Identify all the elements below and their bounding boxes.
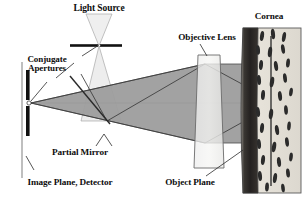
source-upper-cone: [86, 14, 112, 46]
leader-conjugate-b: [31, 82, 47, 101]
label-image-plane-detector: Image Plane, Detector: [8, 178, 132, 188]
label-conjugate-line2: Apertures: [28, 63, 66, 73]
label-objective-lens: Objective Lens: [166, 33, 248, 43]
cornea-epithelium-band: [241, 28, 258, 193]
label-object-plane: Object Plane: [152, 178, 228, 188]
aperture-blade-lower: [26, 106, 30, 136]
light-source-aperture-bar: [70, 44, 122, 47]
cornea-block: [241, 28, 301, 193]
label-partial-mirror: Partial Mirror: [42, 148, 118, 158]
objective-lens: [194, 55, 224, 168]
objective-lens-body: [194, 55, 224, 168]
label-conjugate-apertures: Conjugate Apertures: [16, 55, 78, 74]
light-source-assembly: [70, 44, 122, 47]
label-light-source: Light Source: [62, 4, 136, 14]
label-cornea: Cornea: [244, 12, 294, 22]
leader-objective-lens: [200, 44, 207, 56]
detector-pinhole: [27, 101, 31, 105]
figure-canvas: Light Source Conjugate Apertures Partial…: [0, 0, 303, 204]
leader-partial-mirror: [96, 134, 112, 146]
aperture-blade-upper: [26, 70, 30, 100]
leader-image-plane: [26, 156, 34, 170]
optical-diagram: [0, 0, 303, 204]
conjugate-aperture-assembly: [22, 62, 31, 178]
